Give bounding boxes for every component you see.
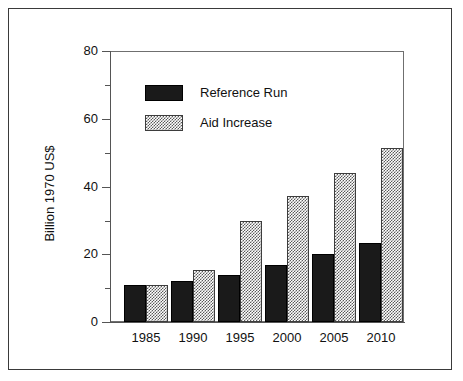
bar-reference-run-1995: [218, 275, 240, 322]
bar-chart-figure: 80 60 40 20 0 Billion 1970 US$: [0, 0, 463, 381]
legend-item-aid-increase: Aid Increase: [145, 112, 335, 142]
y-tick-40: [102, 187, 111, 188]
legend-label-reference-run: Reference Run: [200, 84, 287, 102]
legend-swatch-reference-run-icon: [145, 85, 183, 101]
chart-legend: Reference Run Aid Increase: [145, 82, 335, 142]
y-tick-20: [102, 254, 111, 255]
bar-reference-run-1985: [124, 285, 146, 322]
legend-label-aid-increase: Aid Increase: [200, 114, 272, 132]
y-tick-80: [102, 51, 111, 52]
y-tick-0: [102, 322, 111, 323]
bar-aid-increase-1995: [240, 221, 262, 322]
y-axis-label-60-text: 60: [84, 112, 98, 125]
bar-aid-increase-2005: [334, 173, 356, 323]
bar-reference-run-2010: [359, 243, 381, 322]
bar-aid-increase-2010: [381, 148, 403, 323]
y-axis-label-40-text: 40: [84, 180, 98, 193]
y-axis-label-60: 60: [62, 119, 98, 120]
bar-aid-increase-1985: [146, 285, 168, 322]
legend-item-reference-run: Reference Run: [145, 82, 335, 112]
x-axis-line: [110, 322, 405, 323]
legend-swatch-aid-increase-icon: [145, 115, 183, 131]
bar-reference-run-1990: [171, 281, 193, 323]
y-axis-label-0-text: 0: [91, 315, 98, 328]
y-axis-label-40: 40: [62, 187, 98, 188]
page-canvas: 80 60 40 20 0 Billion 1970 US$: [0, 0, 463, 381]
bar-aid-increase-2000: [287, 196, 309, 322]
y-axis-label-20-text: 20: [84, 247, 98, 260]
x-axis-label-2010: 2010: [351, 331, 411, 344]
y-axis-title: Billion 1970 US$: [42, 124, 57, 264]
bar-reference-run-2000: [265, 265, 287, 322]
y-tick-60: [102, 119, 111, 120]
bar-aid-increase-1990: [193, 270, 215, 322]
y-axis-label-20: 20: [62, 254, 98, 255]
y-axis-label-0: 0: [62, 322, 98, 323]
y-axis-label-80: 80: [62, 51, 98, 52]
bar-reference-run-2005: [312, 254, 334, 323]
y-axis-label-80-text: 80: [84, 44, 98, 57]
